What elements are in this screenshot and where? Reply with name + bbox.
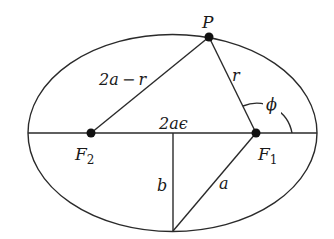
segment-p-to-f1 (209, 37, 256, 133)
label-r: r (232, 66, 241, 85)
label-2a-epsilon: 2aϵ (158, 114, 188, 133)
label-f2-subscript: 2 (87, 153, 95, 167)
label-2a-minus-r: 2a − r (98, 70, 148, 89)
point-f1 (252, 129, 261, 138)
label-f2: F2 (74, 144, 94, 167)
label-phi: ϕ (266, 95, 277, 114)
label-a: a (219, 174, 229, 193)
label-b: b (157, 176, 167, 195)
label-f1: F1 (257, 144, 277, 167)
ellipse-diagram: P F2 F1 2a − r r 2aϵ b a ϕ (0, 0, 334, 239)
label-p: P (201, 12, 214, 32)
segment-f1-to-bottom (173, 133, 256, 231)
point-f2 (87, 129, 96, 138)
label-f1-subscript: 1 (270, 153, 278, 167)
point-p (205, 33, 214, 42)
